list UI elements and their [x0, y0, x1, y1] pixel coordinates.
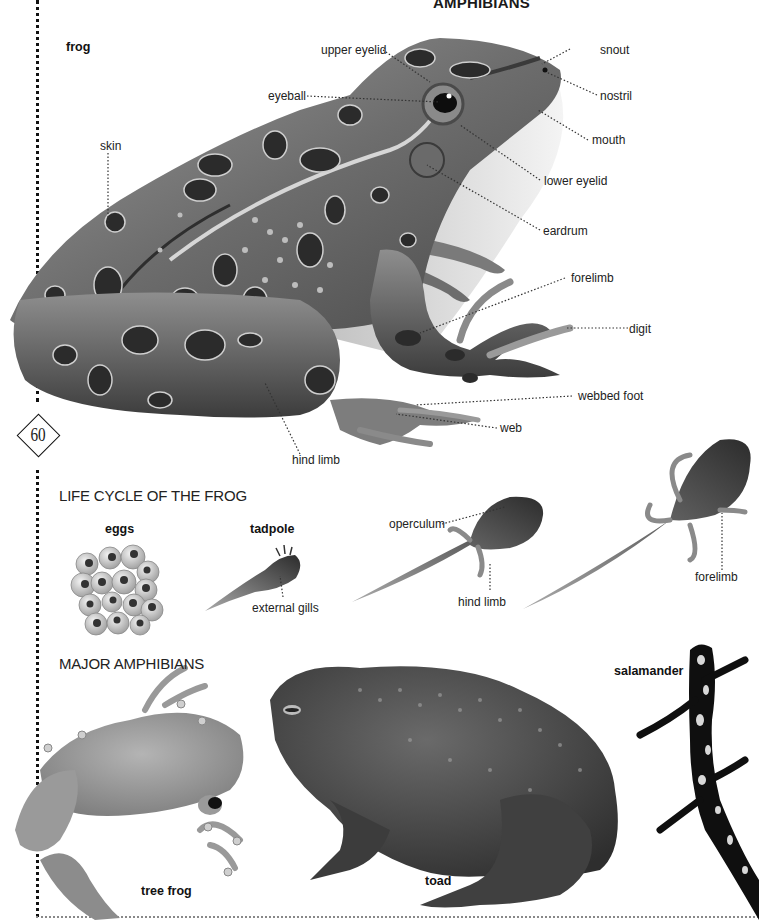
label-operculum: operculum [389, 517, 445, 531]
major-amphibians-heading: MAJOR AMPHIBIANS [59, 655, 204, 672]
label-forelimb: forelimb [571, 271, 614, 285]
tadpole-hind-limb-illustration [352, 497, 543, 602]
label-mouth: mouth [592, 133, 625, 147]
life-cycle-heading: LIFE CYCLE OF THE FROG [59, 487, 247, 504]
label-eardrum: eardrum [543, 224, 588, 238]
label-tadpole-forelimb: forelimb [695, 570, 738, 584]
eggs-caption: eggs [105, 522, 134, 536]
frog-caption: frog [66, 40, 90, 54]
label-eyeball: eyeball [268, 89, 306, 103]
label-nostril: nostril [600, 89, 632, 103]
label-snout: snout [600, 43, 629, 57]
eggs-illustration [71, 545, 163, 635]
label-skin: skin [100, 139, 121, 153]
toad-caption: toad [425, 874, 451, 888]
tree-frog-caption: tree frog [141, 884, 192, 898]
label-upper-eyelid: upper eyelid [321, 43, 386, 57]
toad-illustration [270, 666, 618, 907]
label-web: web [500, 421, 522, 435]
label-hind-limb: hind limb [292, 453, 340, 467]
label-external-gills: external gills [252, 601, 319, 615]
label-lower-eyelid: lower eyelid [544, 174, 607, 188]
tree-frog-illustration [15, 668, 243, 920]
salamander-illustration [640, 644, 759, 920]
label-webbed-foot: webbed foot [578, 389, 643, 403]
label-digit: digit [629, 322, 651, 336]
label-tadpole-hind-limb: hind limb [458, 595, 506, 609]
salamander-caption: salamander [614, 664, 683, 678]
tadpole-caption: tadpole [250, 522, 294, 536]
